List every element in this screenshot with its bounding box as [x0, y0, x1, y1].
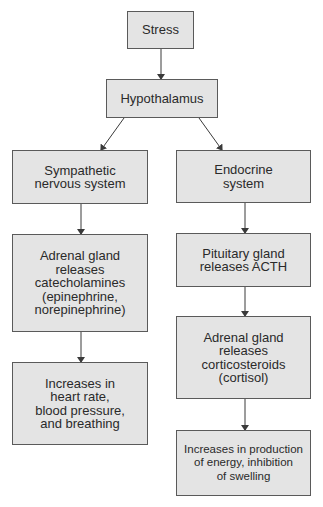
- node-stress: Stress: [127, 11, 194, 49]
- node-stress-label: Stress: [142, 23, 179, 37]
- node-sympathetic-label: Sympathetic nervous system: [34, 164, 125, 191]
- node-adrenal-corticosteroids: Adrenal gland releases corticosteroids (…: [176, 316, 311, 399]
- node-hypothalamus-label: Hypothalamus: [120, 92, 203, 106]
- node-heart-rate-increase: Increases in heart rate, blood pressure,…: [12, 362, 148, 445]
- node-endocrine-system: Endocrine system: [176, 150, 311, 203]
- node-adrenal-catecholamines-label: Adrenal gland releases catecholamines (e…: [34, 249, 125, 317]
- node-hypothalamus: Hypothalamus: [106, 79, 218, 118]
- arrow-hypothalamus-to-sympathetic: [101, 118, 124, 150]
- node-endocrine-label: Endocrine system: [214, 163, 273, 190]
- node-pituitary-label: Pituitary gland releases ACTH: [200, 247, 287, 274]
- node-energy-production: Increases in production of energy, inhib…: [176, 430, 311, 496]
- arrow-hypothalamus-to-endocrine: [199, 118, 222, 150]
- node-heart-rate-label: Increases in heart rate, blood pressure,…: [35, 377, 125, 431]
- node-adrenal-corticosteroids-label: Adrenal gland releases corticosteroids (…: [202, 331, 286, 385]
- stress-response-flowchart: Stress Hypothalamus Sympathetic nervous …: [0, 0, 323, 507]
- node-sympathetic-nervous-system: Sympathetic nervous system: [12, 150, 148, 204]
- node-pituitary-gland: Pituitary gland releases ACTH: [176, 233, 311, 287]
- node-energy-label: Increases in production of energy, inhib…: [184, 443, 303, 484]
- node-adrenal-catecholamines: Adrenal gland releases catecholamines (e…: [12, 234, 148, 332]
